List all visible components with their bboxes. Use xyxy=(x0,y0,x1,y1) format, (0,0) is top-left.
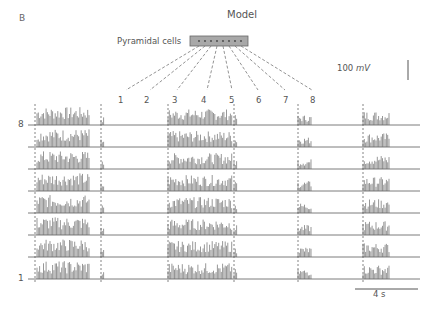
row-label-bottom: 1 xyxy=(18,273,24,283)
stimulus-number-3: 3 xyxy=(172,95,177,105)
stimulus-number-5: 5 xyxy=(229,95,234,105)
figure-canvas xyxy=(0,0,438,319)
time-scale-label: 4 s xyxy=(373,289,386,299)
stimulus-number-2: 2 xyxy=(144,95,149,105)
row-label-top: 8 xyxy=(18,119,24,129)
voltage-traces xyxy=(28,107,420,279)
stimulus-number-1: 1 xyxy=(118,95,123,105)
model-box xyxy=(190,36,248,46)
stimulus-number-7: 7 xyxy=(283,95,288,105)
stimulus-number-8: 8 xyxy=(310,95,315,105)
voltage-scale-label: 100 mV xyxy=(337,63,370,73)
stimulus-number-6: 6 xyxy=(256,95,261,105)
fan-lines xyxy=(126,46,312,90)
stimulus-number-4: 4 xyxy=(201,95,206,105)
